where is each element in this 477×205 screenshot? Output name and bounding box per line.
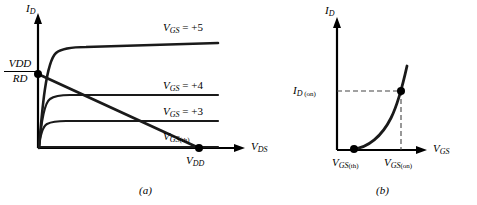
panel-b-plot (290, 0, 477, 205)
figure-container: ID VDD RD VGS = +5 VGS = +4 VGS = +3 VGS… (0, 0, 477, 205)
curve-label-vgs-4: VGS = +4 (163, 80, 203, 91)
panel-a-y-axis-label: ID (26, 3, 35, 14)
transfer-curve (353, 66, 407, 149)
panel-b-x-axis-label: VGS (433, 143, 450, 154)
panel-a-caption: (a) (139, 184, 152, 196)
panel-b: ID ID (on) VGS(th) VGS(on) VGS (b) (290, 0, 477, 205)
y-axis (333, 17, 341, 150)
curve-label-vgs-th: VGS(th) (163, 131, 190, 142)
panel-a-x-axis-label: VDS (251, 141, 268, 152)
vdd-over-rd-label: VDD RD (4, 58, 36, 84)
id-on-label: ID (on) (293, 85, 316, 96)
vgs-th-dot (350, 145, 358, 153)
vgs-th-label: VGS(th) (332, 157, 359, 168)
vgs-on-label: VGS(on) (384, 157, 412, 168)
load-line-x-intercept-dot (195, 144, 203, 152)
x-intercept-label-vdd: VDD (186, 155, 204, 166)
curve-label-vgs-3: VGS = +3 (163, 106, 203, 117)
curve-label-vgs-5: VGS = +5 (163, 22, 203, 33)
panel-b-caption: (b) (376, 184, 389, 196)
panel-b-y-axis-label: ID (325, 5, 334, 16)
operating-point-dot (397, 87, 405, 95)
panel-a-plot (0, 0, 290, 205)
panel-a: ID VDD RD VGS = +5 VGS = +4 VGS = +3 VGS… (0, 0, 290, 205)
